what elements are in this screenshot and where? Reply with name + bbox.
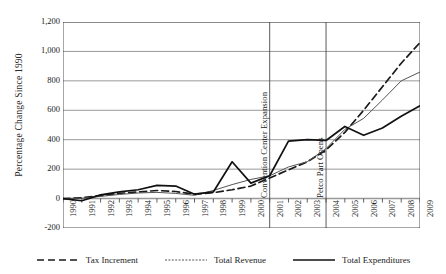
legend-swatch-0 [36, 256, 80, 264]
x-tick-label: 2008 [405, 200, 417, 246]
x-tick-label: 2000 [255, 200, 267, 246]
series-line-1 [63, 72, 420, 199]
x-tick-label: 2009 [424, 200, 436, 246]
x-tick-label: 2003 [311, 200, 323, 246]
x-tick-label: 2001 [274, 200, 286, 246]
y-axis-tick-labels: 1,2001,0008006004002000-200 [22, 0, 60, 274]
x-tick-label: 2005 [349, 200, 361, 246]
y-tick-label: 1,000 [26, 46, 60, 55]
x-tick-label: 1996 [180, 200, 192, 246]
x-tick-label: 2006 [368, 200, 380, 246]
x-tick-label: 1992 [105, 200, 117, 246]
x-tick-label: 1994 [142, 200, 154, 246]
x-tick-label: 1999 [236, 200, 248, 246]
chart-legend: Tax IncrementTotal RevenueTotal Expendit… [0, 250, 446, 270]
annotation-label: Petco Part Opens [316, 137, 325, 198]
legend-label-2: Total Expenditures [342, 255, 410, 265]
legend-item-2: Total Expenditures [292, 255, 410, 265]
y-tick-label: 800 [26, 76, 60, 85]
x-tick-label: 2002 [292, 200, 304, 246]
legend-label-1: Total Revenue [214, 255, 266, 265]
x-tick-label: 1993 [123, 200, 135, 246]
y-tick-label: 200 [26, 164, 60, 173]
x-tick-label: 1997 [199, 200, 211, 246]
x-tick-label: 1990 [67, 200, 79, 246]
x-axis-tick-labels: 1990199119921993199419951996199719981999… [63, 202, 420, 248]
legend-swatch-1 [164, 256, 208, 264]
series-line-0 [63, 43, 420, 199]
legend-item-1: Total Revenue [164, 255, 266, 265]
x-tick-label: 1998 [217, 200, 229, 246]
chart-canvas [63, 22, 420, 228]
y-tick-label: 1,200 [26, 17, 60, 26]
legend-swatch-2 [292, 256, 336, 264]
series-line-2 [63, 106, 420, 201]
legend-label-0: Tax Increment [86, 255, 138, 265]
annotation-label: Convention Center Expansion [260, 92, 269, 198]
y-tick-label: 600 [26, 105, 60, 114]
x-tick-label: 2004 [330, 200, 342, 246]
x-tick-label: 2007 [386, 200, 398, 246]
y-tick-label: -200 [26, 223, 60, 232]
y-tick-label: 0 [26, 194, 60, 203]
x-tick-label: 1991 [86, 200, 98, 246]
plot-area [63, 22, 420, 228]
y-tick-label: 400 [26, 135, 60, 144]
chart-figure: Percentage Change Since 1990 1,2001,0008… [0, 0, 446, 274]
x-tick-label: 1995 [161, 200, 173, 246]
legend-item-0: Tax Increment [36, 255, 138, 265]
